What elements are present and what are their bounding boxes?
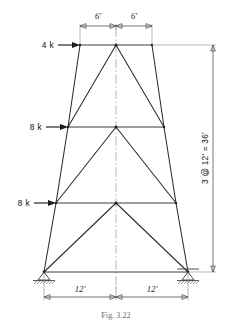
load-label-lower: 8 k <box>18 198 31 208</box>
joint-mid-apex <box>115 126 118 129</box>
dim-label-top-right: 6' <box>131 11 137 21</box>
figure-caption: Fig. 3.22 <box>101 311 130 320</box>
load-arrowhead-lower <box>48 200 56 206</box>
diagonal-p3-right <box>116 203 188 272</box>
load-arrow-middle: 8 k <box>30 122 68 132</box>
diagonal-p1-left <box>68 45 116 127</box>
load-label-top: 4 k <box>42 40 55 50</box>
diagonal-p3-left <box>44 203 116 272</box>
load-arrowhead-middle <box>60 124 68 130</box>
joint-top-apex <box>115 44 118 47</box>
dim-label-bottom-right: 12' <box>147 284 158 294</box>
dim-label-bottom-left: 12' <box>75 284 86 294</box>
dim-label-vertical: 3 @ 12' = 36' <box>200 132 210 184</box>
joint-level2-right <box>163 126 165 128</box>
load-arrow-lower: 8 k <box>18 198 56 208</box>
truss-diagram: 6' 6' <box>0 0 232 322</box>
support-right-hatching <box>178 281 199 284</box>
load-label-middle: 8 k <box>30 122 43 132</box>
diagonal-p1-right <box>116 45 164 127</box>
joint-lower-apex <box>115 202 118 205</box>
truss-figure: 6' 6' <box>0 0 232 322</box>
leg-left <box>44 45 80 272</box>
load-arrowhead-top <box>72 42 80 48</box>
leg-right <box>152 45 188 272</box>
vertical-dimension-group: 3 @ 12' = 36' <box>152 45 216 272</box>
dim-label-top-left: 6' <box>95 11 101 21</box>
support-left-hatching <box>34 281 55 284</box>
diagonal-p2-left <box>56 127 116 203</box>
diagonal-p2-right <box>116 127 176 203</box>
joint-level3-right <box>175 202 177 204</box>
load-arrow-top: 4 k <box>42 40 80 50</box>
